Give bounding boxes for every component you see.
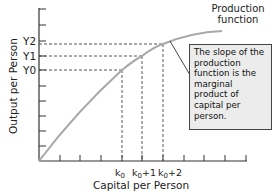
dashed-guides bbox=[39, 44, 163, 161]
y-axis-title: Output per Person bbox=[7, 38, 19, 134]
annotation-text: The slope of the production function is … bbox=[194, 47, 264, 121]
production-function-label: Production function bbox=[208, 3, 268, 25]
y0-label: Y0 bbox=[22, 64, 36, 76]
annotation-box: The slope of the production function is … bbox=[189, 44, 272, 130]
x-axis-title: Capital per Person bbox=[93, 179, 189, 191]
x-ticks bbox=[60, 155, 246, 161]
y1-label: Y1 bbox=[22, 50, 36, 62]
y2-label: Y2 bbox=[22, 35, 36, 47]
y-ticks bbox=[39, 9, 46, 146]
curve-label-line2: function bbox=[208, 14, 268, 25]
annotation-leader-line bbox=[170, 41, 190, 75]
curve-label-line1: Production bbox=[208, 3, 268, 14]
